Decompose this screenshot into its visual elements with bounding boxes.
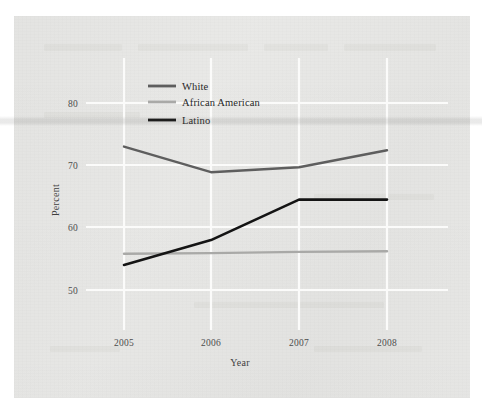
y-tick-label-80: 80	[68, 99, 78, 109]
x-tick-label-2006: 2006	[201, 338, 221, 348]
series-line-latino	[124, 200, 387, 265]
x-tick-label-2007: 2007	[289, 338, 309, 348]
legend-label-latino: Latino	[182, 115, 210, 126]
x-tick-label-2008: 2008	[377, 338, 397, 348]
y-tick-label-50: 50	[68, 286, 78, 296]
line-chart: 80 70 60 50 2005 2006 2007 2008 Year Per…	[0, 0, 482, 408]
y-tick-label-70: 70	[68, 161, 78, 171]
y-tick-label-60: 60	[68, 223, 78, 233]
scanned-page: 80 70 60 50 2005 2006 2007 2008 Year Per…	[0, 0, 482, 408]
x-tick-label-2005: 2005	[114, 338, 134, 348]
chart-canvas: 80 70 60 50 2005 2006 2007 2008 Year Per…	[0, 0, 482, 408]
series-line-white	[124, 147, 387, 173]
grid-lines	[86, 58, 448, 330]
x-axis-title: Year	[230, 357, 250, 368]
legend-label-african-american: African American	[182, 97, 261, 108]
legend-label-white: White	[182, 81, 209, 92]
y-axis-title: Percent	[50, 184, 61, 216]
